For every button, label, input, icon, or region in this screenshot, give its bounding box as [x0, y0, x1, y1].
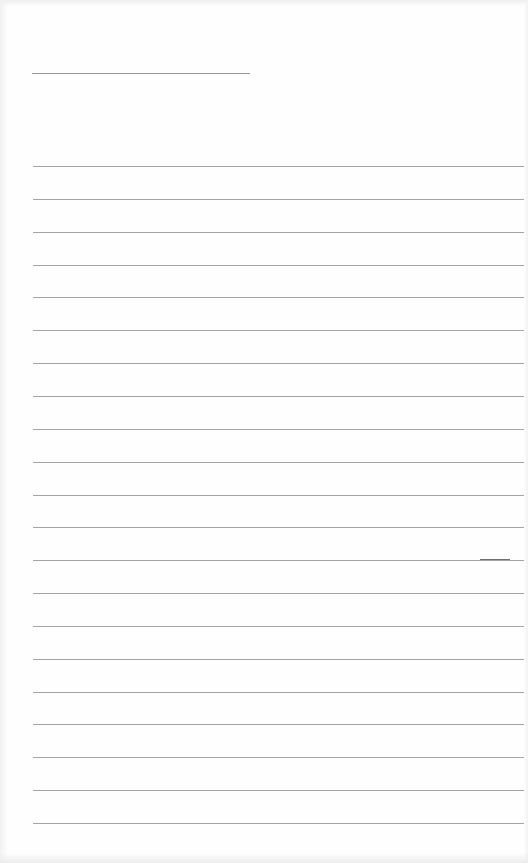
- lined-paper-sheet: [0, 0, 528, 863]
- ruled-line: [33, 495, 524, 496]
- ruled-line: [33, 265, 524, 266]
- ink-mark: [480, 559, 510, 560]
- ruled-line: [33, 330, 524, 331]
- ruled-line: [33, 757, 524, 758]
- ruled-line: [33, 823, 524, 824]
- ruled-line: [33, 166, 524, 167]
- ruled-line: [33, 659, 524, 660]
- ruled-line: [33, 527, 524, 528]
- paper-edge-top: [0, 0, 528, 6]
- ruled-line: [33, 560, 524, 561]
- title-rule: [32, 73, 250, 74]
- paper-edge-left: [0, 0, 8, 863]
- ruled-line: [33, 232, 524, 233]
- ruled-line: [33, 396, 524, 397]
- paper-edge-bottom: [0, 853, 528, 863]
- ruled-line: [33, 429, 524, 430]
- ruled-line: [33, 297, 524, 298]
- ruled-line: [33, 790, 524, 791]
- ruled-line: [33, 462, 524, 463]
- ruled-line: [33, 724, 524, 725]
- paper-edge-right: [524, 0, 528, 863]
- ruled-line: [33, 626, 524, 627]
- ruled-line: [33, 692, 524, 693]
- ruled-line: [33, 363, 524, 364]
- ruled-line: [33, 199, 524, 200]
- ruled-line: [33, 593, 524, 594]
